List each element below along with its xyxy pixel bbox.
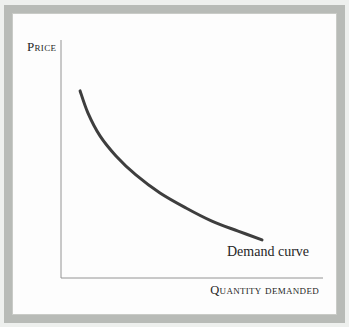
demand-curve-line	[80, 91, 262, 240]
demand-curve-annotation: Demand curve	[227, 244, 309, 259]
figure: Price Quantity demanded Demand curve	[0, 0, 349, 327]
x-axis-label: Quantity demanded	[210, 284, 319, 298]
y-axis-label: Price	[27, 40, 56, 54]
